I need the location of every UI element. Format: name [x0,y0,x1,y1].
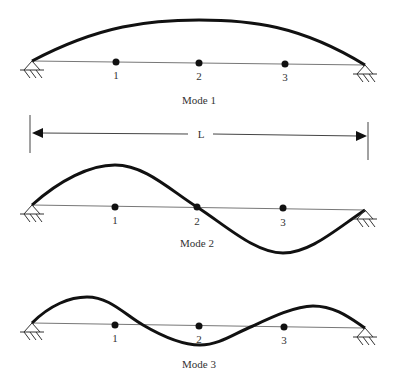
mode-1-label: Mode 1 [182,94,216,106]
node-label-1: 1 [113,69,119,81]
mode-2-label: Mode 2 [180,237,214,249]
node-label-1: 1 [112,214,118,226]
pin-support-icon [353,210,377,227]
node-marker-2 [196,60,203,67]
node-marker-1 [113,59,120,66]
node-label-3: 3 [280,216,286,228]
node-label-3: 3 [281,334,287,346]
arrow-right-icon [356,131,367,141]
node-marker-1 [112,322,119,329]
dimension-line-left [40,133,188,134]
dimension-line-right [213,134,358,136]
pin-support-icon [353,328,377,345]
mode-1-shape-curve [32,20,365,65]
pin-support-icon [353,65,377,82]
node-marker-1 [112,204,119,211]
node-label-2: 2 [194,215,200,227]
node-label-2: 2 [196,70,202,82]
node-label-2: 2 [196,333,202,345]
arrow-left-icon [32,128,43,138]
pin-support-icon [20,323,44,340]
node-marker-3 [280,205,287,212]
mode-shapes-diagram: 1 2 3 Mode 1 L 1 2 3 Mode 2 [0,0,398,384]
node-label-1: 1 [112,332,118,344]
node-label-3: 3 [282,71,288,83]
mode-2-group: 1 2 3 Mode 2 [20,165,377,253]
node-marker-3 [281,324,288,331]
node-marker-3 [282,61,289,68]
length-label: L [198,128,205,140]
mode-3-label: Mode 3 [182,358,216,370]
node-marker-2 [196,323,203,330]
pin-support-icon [20,61,44,78]
pin-support-icon [20,205,44,222]
mode-3-group: 1 2 3 Mode 3 [20,297,377,370]
node-marker-2 [194,204,201,211]
mode-1-group: 1 2 3 Mode 1 [20,20,377,106]
length-dimension: L [30,115,368,160]
